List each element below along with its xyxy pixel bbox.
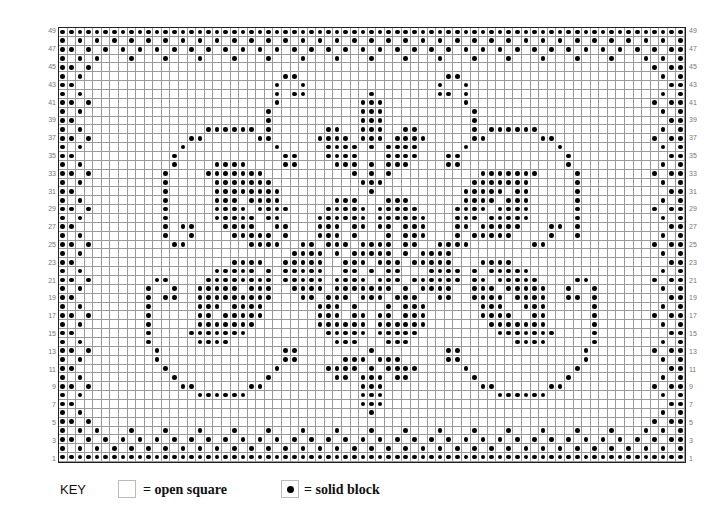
solid-block [59, 329, 68, 338]
open-square [659, 63, 668, 72]
open-square [110, 400, 119, 409]
solid-block [608, 427, 617, 436]
open-square [565, 241, 574, 250]
solid-block [462, 143, 471, 152]
open-square [634, 63, 643, 72]
open-square [634, 196, 643, 205]
open-square [282, 125, 291, 134]
open-square [170, 81, 179, 90]
open-square [556, 63, 565, 72]
open-square [419, 435, 428, 444]
open-square [402, 382, 411, 391]
open-square [402, 418, 411, 427]
open-square [205, 196, 214, 205]
solid-block [668, 63, 677, 72]
open-square [599, 373, 608, 382]
solid-block [376, 391, 385, 400]
open-square [616, 285, 625, 294]
solid-block [496, 205, 505, 214]
open-square [556, 241, 565, 250]
open-square [170, 409, 179, 418]
solid-block [668, 187, 677, 196]
open-square [205, 161, 214, 170]
solid-block [59, 294, 68, 303]
open-square [162, 90, 171, 99]
open-square [411, 338, 420, 347]
open-square [325, 196, 334, 205]
solid-block [385, 267, 394, 276]
open-square [256, 108, 265, 117]
open-square [110, 276, 119, 285]
open-square [479, 356, 488, 365]
open-square [591, 152, 600, 161]
open-square [128, 187, 137, 196]
solid-block [393, 205, 402, 214]
solid-block [359, 179, 368, 188]
open-square [608, 90, 617, 99]
solid-block [676, 117, 685, 126]
open-square [539, 258, 548, 267]
solid-block [68, 205, 77, 214]
open-square [625, 134, 634, 143]
open-square [659, 187, 668, 196]
solid-block [548, 453, 557, 462]
row-label-right: 41 [689, 99, 707, 106]
solid-block [402, 294, 411, 303]
open-square [351, 347, 360, 356]
open-square [102, 90, 111, 99]
solid-block [548, 382, 557, 391]
open-square [248, 356, 257, 365]
open-square [496, 373, 505, 382]
solid-block [445, 285, 454, 294]
open-square [556, 303, 565, 312]
solid-block [110, 37, 119, 46]
open-square [153, 311, 162, 320]
open-square [668, 285, 677, 294]
open-square [85, 72, 94, 81]
open-square [574, 373, 583, 382]
open-square [333, 63, 342, 72]
open-square [179, 347, 188, 356]
open-square [325, 161, 334, 170]
open-square [110, 99, 119, 108]
open-square [93, 373, 102, 382]
solid-block [445, 356, 454, 365]
open-square [505, 294, 514, 303]
open-square [222, 241, 231, 250]
open-square [599, 285, 608, 294]
open-square [239, 400, 248, 409]
open-square [145, 241, 154, 250]
open-square [196, 409, 205, 418]
open-square [273, 258, 282, 267]
solid-block [659, 303, 668, 312]
open-square [668, 214, 677, 223]
open-square [453, 365, 462, 374]
open-square [642, 329, 651, 338]
solid-block [316, 320, 325, 329]
open-square [385, 400, 394, 409]
open-square [462, 55, 471, 64]
open-square [110, 161, 119, 170]
open-square [248, 46, 257, 55]
solid-block [471, 214, 480, 223]
open-square [599, 134, 608, 143]
open-square [548, 427, 557, 436]
open-square [625, 303, 634, 312]
open-square [213, 311, 222, 320]
solid-block [531, 285, 540, 294]
open-square [599, 338, 608, 347]
open-square [128, 435, 137, 444]
open-square [402, 187, 411, 196]
open-square [539, 81, 548, 90]
open-square [445, 143, 454, 152]
open-square [539, 152, 548, 161]
open-square [316, 338, 325, 347]
open-square [68, 161, 77, 170]
solid-block [222, 276, 231, 285]
solid-block [196, 303, 205, 312]
solid-block [436, 90, 445, 99]
open-square [222, 37, 231, 46]
solid-block [231, 55, 240, 64]
open-square [170, 170, 179, 179]
open-square [239, 241, 248, 250]
